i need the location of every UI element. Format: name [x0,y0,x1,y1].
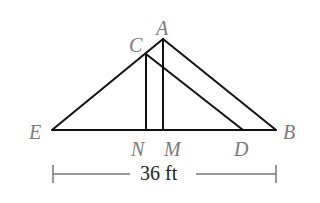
label-B: B [283,122,295,142]
label-E: E [29,122,41,142]
segment-AB [163,39,276,130]
label-A: A [156,18,168,38]
label-N: N [131,139,144,159]
dimension-label: 36 ft [136,163,181,183]
label-M: M [164,139,181,159]
label-C: C [129,35,142,55]
label-D: D [234,139,248,159]
